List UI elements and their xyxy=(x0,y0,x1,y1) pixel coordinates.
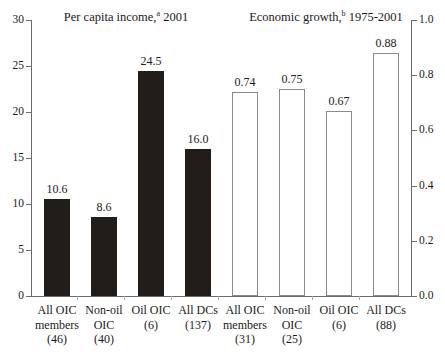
bar-growth-all-dcs[interactable] xyxy=(373,53,399,296)
bar-growth-all-oic-members[interactable] xyxy=(232,92,258,296)
bar-per-capita-oil-oic[interactable] xyxy=(138,71,164,296)
right-axis-label-0-2: 0.2 xyxy=(419,235,433,247)
right-axis-label-0-4: 0.4 xyxy=(419,180,433,192)
bar-value-growth-all-dcs: 0.88 xyxy=(361,37,411,49)
right-axis-tick-0-6 xyxy=(412,130,417,131)
left-axis-tick-20 xyxy=(26,112,31,113)
right-axis-label-1-0: 1.0 xyxy=(419,14,433,26)
x-axis-tick-sep-3 xyxy=(171,296,172,300)
bar-growth-non-oil-oic[interactable] xyxy=(279,89,305,296)
right-axis-tick-0-8 xyxy=(412,75,417,76)
right-axis-tick-0-2 xyxy=(412,241,417,242)
left-panel-title-main: Per capita income, xyxy=(64,10,157,24)
x-axis-line xyxy=(31,296,412,297)
left-panel-title-suffix: 2001 xyxy=(160,10,188,24)
bar-per-capita-all-dcs[interactable] xyxy=(185,149,211,296)
left-axis-label-10: 10 xyxy=(0,198,24,210)
bar-value-per-capita-non-oil-oic: 8.6 xyxy=(79,201,129,213)
right-axis-label-0-0: 0.0 xyxy=(419,290,433,302)
category-name-7: All DCs xyxy=(356,303,416,318)
bar-per-capita-non-oil-oic[interactable] xyxy=(91,217,117,296)
category-label-growth-all-dcs: All DCs (88) xyxy=(356,303,416,332)
x-axis-tick-sep-6 xyxy=(312,296,313,300)
left-axis-tick-30 xyxy=(26,20,31,21)
left-axis-label-20: 20 xyxy=(0,106,24,118)
left-axis-label-15: 15 xyxy=(0,152,24,164)
left-axis-label-25: 25 xyxy=(0,60,24,72)
x-axis-tick-sep-1 xyxy=(77,296,78,300)
category-count-1: (40) xyxy=(74,332,134,347)
x-axis-tick-sep-2 xyxy=(124,296,125,300)
right-y-axis-line xyxy=(411,20,412,297)
left-axis-tick-10 xyxy=(26,204,31,205)
left-axis-label-0: 0 xyxy=(0,290,24,302)
left-panel-title: Per capita income,a 2001 xyxy=(36,11,216,24)
bar-value-growth-oil-oic: 0.67 xyxy=(314,95,364,107)
left-axis-tick-5 xyxy=(26,250,31,251)
bar-chart: 0 5 10 15 20 25 30 0.0 0.2 0.4 0.6 0.8 1… xyxy=(0,0,445,358)
left-axis-tick-15 xyxy=(26,158,31,159)
right-panel-title: Economic growth,b 1975-2001 xyxy=(231,11,421,24)
right-axis-label-0-8: 0.8 xyxy=(419,69,433,81)
category-count-7: (88) xyxy=(356,318,416,333)
right-axis-tick-0-4 xyxy=(412,186,417,187)
left-y-axis-line xyxy=(31,20,32,297)
x-axis-tick-sep-4 xyxy=(218,296,219,300)
right-axis-tick-0-0 xyxy=(412,296,417,297)
bar-value-per-capita-all-dcs: 16.0 xyxy=(173,133,223,145)
bar-per-capita-all-oic-members[interactable] xyxy=(44,199,70,297)
right-panel-title-main: Economic growth, xyxy=(249,10,341,24)
x-axis-tick-sep-5 xyxy=(265,296,266,300)
left-axis-label-5: 5 xyxy=(0,244,24,256)
right-panel-title-suffix: 1975-2001 xyxy=(346,10,403,24)
bar-value-per-capita-oil-oic: 24.5 xyxy=(126,55,176,67)
x-axis-tick-sep-7 xyxy=(359,296,360,300)
category-count-5: (25) xyxy=(262,332,322,347)
left-axis-tick-25 xyxy=(26,66,31,67)
bar-value-growth-non-oil-oic: 0.75 xyxy=(267,73,317,85)
bar-growth-oil-oic[interactable] xyxy=(326,111,352,296)
left-axis-tick-0 xyxy=(26,296,31,297)
bar-value-per-capita-all-oic-members: 10.6 xyxy=(32,183,82,195)
left-axis-label-30: 30 xyxy=(0,14,24,26)
right-axis-label-0-6: 0.6 xyxy=(419,124,433,136)
bar-value-growth-all-oic-members: 0.74 xyxy=(220,76,270,88)
